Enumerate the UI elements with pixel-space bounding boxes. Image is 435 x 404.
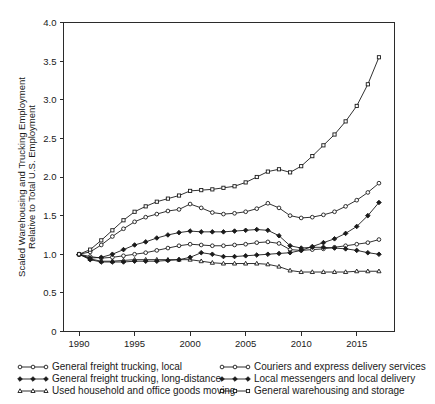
x-tick-label: 2010 xyxy=(291,338,312,349)
data-point-marker xyxy=(166,233,171,238)
y-tick-label: 0 xyxy=(51,326,56,337)
legend-marker-icon xyxy=(233,377,238,382)
data-point-marker xyxy=(210,252,215,257)
data-point-marker xyxy=(233,211,237,215)
data-point-marker xyxy=(100,239,103,242)
legend-marker-icon xyxy=(18,377,23,382)
data-point-marker xyxy=(310,270,314,274)
data-point-marker xyxy=(133,220,137,224)
data-point-marker xyxy=(122,254,126,258)
data-point-marker xyxy=(288,268,292,272)
data-point-marker xyxy=(266,262,270,266)
y-tick-label: 1.0 xyxy=(43,249,56,260)
data-point-marker xyxy=(244,210,248,214)
y-tick-label: 2.0 xyxy=(43,171,56,182)
legend-label: Couriers and express delivery services xyxy=(254,361,426,372)
legend-marker-icon xyxy=(220,389,223,392)
data-point-marker xyxy=(122,219,125,222)
y-axis-title-line2: Relative to Total U.S. Employment xyxy=(26,105,37,249)
data-point-marker xyxy=(366,191,370,195)
data-point-marker xyxy=(232,261,236,265)
data-point-marker xyxy=(232,229,237,234)
chart-legend: General freight trucking, localGeneral f… xyxy=(18,361,426,396)
legend-marker-icon xyxy=(233,365,237,369)
data-point-marker xyxy=(200,189,203,192)
data-point-marker xyxy=(188,202,192,206)
data-point-marker xyxy=(333,133,336,136)
data-point-marker xyxy=(221,254,226,259)
data-point-marker xyxy=(310,215,314,219)
legend-item: General freight trucking, local xyxy=(18,361,182,372)
data-point-marker xyxy=(244,242,248,246)
data-point-marker xyxy=(277,206,281,210)
data-point-marker xyxy=(177,244,181,248)
legend-marker-icon xyxy=(246,389,249,392)
data-point-marker xyxy=(254,227,259,232)
data-point-marker xyxy=(111,235,115,239)
data-point-marker xyxy=(366,250,371,255)
y-tick-label: 2.5 xyxy=(43,133,56,144)
y-axis-title: Scaled Warehousing and Trucking Employme… xyxy=(16,77,37,277)
data-point-marker xyxy=(199,243,203,247)
y-tick-label: 3.0 xyxy=(43,94,56,105)
data-point-marker xyxy=(377,56,380,59)
data-point-marker xyxy=(344,205,348,209)
data-point-marker xyxy=(111,229,114,232)
legend-label: General freight trucking, local xyxy=(52,361,182,372)
y-tick-label: 4.0 xyxy=(43,17,56,28)
data-point-marker xyxy=(89,248,92,251)
data-point-marker xyxy=(355,104,358,107)
data-point-marker xyxy=(188,242,192,246)
data-point-marker xyxy=(155,236,160,241)
legend-item: Couriers and express delivery services xyxy=(220,361,426,372)
data-point-marker xyxy=(344,270,348,274)
data-point-marker xyxy=(155,249,159,253)
data-point-marker xyxy=(333,210,337,214)
data-point-marker xyxy=(155,212,159,216)
data-point-marker xyxy=(322,144,325,147)
legend-item: General warehousing and storage xyxy=(220,385,405,396)
data-point-marker xyxy=(211,188,214,191)
data-point-marker xyxy=(221,230,226,235)
data-point-marker xyxy=(199,259,203,263)
data-point-marker xyxy=(277,242,281,246)
data-point-marker xyxy=(254,253,259,258)
x-tick-label: 2000 xyxy=(180,338,201,349)
plot-frame xyxy=(64,23,395,332)
data-point-marker xyxy=(177,194,180,197)
data-point-marker xyxy=(177,208,181,212)
legend-marker-icon xyxy=(220,365,224,369)
data-point-marker xyxy=(77,253,80,256)
legend-item: General freight trucking, long-distance xyxy=(18,373,222,384)
data-point-marker xyxy=(277,168,280,171)
data-point-marker xyxy=(321,270,325,274)
data-point-marker xyxy=(243,228,248,233)
data-point-marker xyxy=(332,270,336,274)
data-series-layer xyxy=(77,56,381,274)
legend-marker-icon xyxy=(233,389,236,392)
data-point-marker xyxy=(232,254,237,259)
data-point-marker xyxy=(110,260,115,265)
legend-marker-icon xyxy=(44,389,48,393)
x-tick-label: 2015 xyxy=(346,338,367,349)
data-point-marker xyxy=(144,215,148,219)
data-point-marker xyxy=(366,241,370,245)
data-point-marker xyxy=(332,237,337,242)
data-point-marker xyxy=(143,240,148,245)
legend-marker-icon xyxy=(18,389,22,393)
data-point-marker xyxy=(166,209,170,213)
data-point-marker xyxy=(355,198,359,202)
data-point-marker xyxy=(166,258,171,263)
data-point-marker xyxy=(355,269,359,273)
x-tick-label: 1995 xyxy=(124,338,145,349)
chart-figure: Scaled Warehousing and Trucking Employme… xyxy=(0,0,435,404)
data-point-marker xyxy=(321,240,326,245)
data-point-marker xyxy=(199,250,204,255)
data-point-marker xyxy=(222,186,225,189)
data-point-marker xyxy=(277,251,282,256)
data-point-marker xyxy=(266,201,270,205)
plot-border xyxy=(64,23,395,332)
data-point-marker xyxy=(377,238,381,242)
data-point-marker xyxy=(255,241,259,245)
data-point-marker xyxy=(122,227,126,231)
